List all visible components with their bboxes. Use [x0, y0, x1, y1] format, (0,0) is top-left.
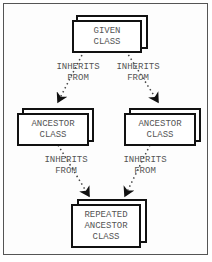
edge-label-line: INHERITS: [50, 62, 106, 73]
node-repeated-ancestor-class: REPEATED ANCESTOR CLASS: [71, 199, 147, 249]
class-label-line: CLASS: [39, 130, 66, 141]
node-ancestor-class-left: ANCESTOR CLASS: [17, 108, 93, 146]
edge-label-line: FROM: [117, 166, 173, 177]
edge-label-left-repeated: INHERITS FROM: [38, 155, 94, 177]
class-label-line: ANCESTOR: [31, 119, 74, 130]
edge-label-line: FROM: [110, 73, 166, 84]
edge-label-line: INHERITS: [38, 155, 94, 166]
class-box: ANCESTOR CLASS: [124, 113, 196, 146]
class-label-line: REPEATED: [84, 210, 127, 221]
class-box: REPEATED ANCESTOR CLASS: [71, 204, 141, 248]
edge-label-right-repeated: INHERITS FROM: [117, 155, 173, 177]
class-label-line: CLASS: [93, 37, 120, 48]
class-box: GIVEN CLASS: [72, 20, 142, 53]
class-label-line: CLASS: [92, 232, 119, 243]
edge-label-line: INHERITS: [110, 62, 166, 73]
class-label-line: ANCESTOR: [84, 221, 127, 232]
edge-label-given-right: INHERITS FROM: [110, 62, 166, 84]
edge-label-given-left: INHERITS FROM: [50, 62, 106, 84]
class-label-line: GIVEN: [93, 26, 120, 37]
edge-label-line: INHERITS: [117, 155, 173, 166]
edge-label-line: FROM: [50, 73, 106, 84]
class-label-line: ANCESTOR: [138, 119, 181, 130]
node-given-class: GIVEN CLASS: [72, 15, 146, 53]
edge-label-line: FROM: [38, 166, 94, 177]
class-label-line: CLASS: [146, 130, 173, 141]
node-ancestor-class-right: ANCESTOR CLASS: [124, 108, 200, 146]
class-box: ANCESTOR CLASS: [17, 113, 89, 146]
